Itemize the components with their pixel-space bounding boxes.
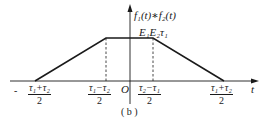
tick-3-numerator: τ₂−τ₁ [138,83,161,95]
tick-1-sign: - [14,85,17,96]
tick-2-label: τ₁−τ₂ 2 [88,83,111,106]
tick-1-denominator: 2 [37,95,42,106]
origin-label: O [121,84,129,95]
tick-3-label: τ₂−τ₁ 2 [138,83,161,106]
trapezoid-curve [35,38,224,81]
tick-4-label: τ₁+τ₂ 2 [210,83,233,106]
y-axis-arrow-icon [128,4,133,12]
figure-caption: ( b ) [121,106,138,117]
tick-2-denominator: 2 [97,95,102,106]
tick-4-numerator: τ₁+τ₂ [210,83,233,95]
plateau-value-label: E₁E₂τ₁ [139,27,168,38]
x-axis-label: t [251,84,254,95]
tick-3-denominator: 2 [147,95,152,106]
tick-1-numerator: τ₁+τ₂ [28,83,51,95]
tick-1-label: τ₁+τ₂ 2 [28,83,51,106]
y-axis-label: f₁(t)∗f₂(t) [134,10,176,21]
tick-4-denominator: 2 [219,95,224,106]
tick-2-numerator: τ₁−τ₂ [88,83,111,95]
